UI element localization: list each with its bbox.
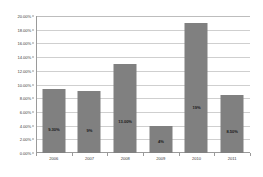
bar-series: 9.30%9%13.00%4%19%8.50% xyxy=(36,16,250,153)
y-axis-tick-label: 12.00% xyxy=(17,68,31,73)
y-axis-tick-label: 6.00% xyxy=(20,109,31,114)
x-axis-tick xyxy=(250,153,251,156)
x-axis-tick-label: 2006 xyxy=(49,156,58,162)
y-axis-tick xyxy=(32,43,34,44)
bar-data-label: 4% xyxy=(158,139,164,144)
bar-slot: 9% xyxy=(72,16,108,153)
bar-data-label: 19% xyxy=(192,105,200,110)
bar-slot: 9.30% xyxy=(36,16,72,153)
y-axis-tick xyxy=(32,98,34,99)
bar-slot: 13.00% xyxy=(107,16,143,153)
bar[interactable] xyxy=(78,91,101,153)
x-axis-tick xyxy=(214,153,215,156)
x-axis-tick xyxy=(72,153,73,156)
chart-screenshot: 0.00%2.00%4.00%6.00%8.00%10.00%12.00%14.… xyxy=(0,0,263,177)
x-axis-tick-label: 2009 xyxy=(156,156,165,162)
y-axis-tick-label: 18.00% xyxy=(17,27,31,32)
bar[interactable] xyxy=(114,64,137,153)
y-axis-tick-label: 0.00% xyxy=(20,151,31,156)
y-axis-tick xyxy=(32,57,34,58)
bar-data-label: 13.00% xyxy=(118,119,132,124)
y-axis-tick-label: 10.00% xyxy=(17,82,31,87)
bar-data-label: 8.50% xyxy=(226,129,237,134)
x-axis-tick xyxy=(143,153,144,156)
y-axis-tick-label: 2.00% xyxy=(20,137,31,142)
bar-data-label: 9.30% xyxy=(48,127,59,132)
y-axis: 0.00%2.00%4.00%6.00%8.00%10.00%12.00%14.… xyxy=(0,16,34,153)
y-axis-tick xyxy=(32,70,34,71)
y-axis-tick xyxy=(32,153,34,154)
bar-slot: 19% xyxy=(179,16,215,153)
y-axis-tick xyxy=(32,125,34,126)
y-axis-tick-label: 4.00% xyxy=(20,123,31,128)
y-axis-tick xyxy=(32,111,34,112)
x-axis-tick xyxy=(36,153,37,156)
bar-slot: 4% xyxy=(143,16,179,153)
y-axis-tick-label: 20.00% xyxy=(17,14,31,19)
bar[interactable] xyxy=(185,23,208,153)
x-axis-tick-label: 2007 xyxy=(85,156,94,162)
y-axis-tick-label: 14.00% xyxy=(17,55,31,60)
bar-chart: 0.00%2.00%4.00%6.00%8.00%10.00%12.00%14.… xyxy=(0,0,263,177)
y-axis-tick-label: 8.00% xyxy=(20,96,31,101)
x-axis-tick xyxy=(107,153,108,156)
y-axis-tick xyxy=(32,139,34,140)
bar-data-label: 9% xyxy=(87,128,93,133)
x-axis-tick-label: 2011 xyxy=(228,156,237,162)
y-axis-tick xyxy=(32,29,34,30)
bar[interactable] xyxy=(42,89,65,153)
x-axis-tick xyxy=(179,153,180,156)
y-axis-tick xyxy=(32,16,34,17)
x-axis-tick-label: 2010 xyxy=(192,156,201,162)
x-axis-tick-label: 2008 xyxy=(121,156,130,162)
x-axis: 200620072008200920102011 xyxy=(36,156,250,168)
y-axis-tick xyxy=(32,84,34,85)
bar[interactable] xyxy=(221,95,244,153)
y-axis-tick-label: 16.00% xyxy=(17,41,31,46)
bar-slot: 8.50% xyxy=(214,16,250,153)
